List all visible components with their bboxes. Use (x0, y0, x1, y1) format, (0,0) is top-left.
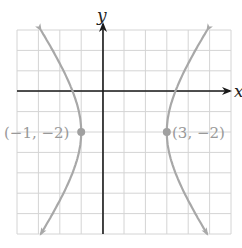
vertex-left-label: (−1, −2) (4, 124, 69, 142)
y-axis: y (96, 5, 107, 234)
vertex-right: (3, −2) (163, 124, 225, 142)
x-axis: x (17, 81, 242, 101)
hyperbola-graph: x y (−1, −2) (3, −2) (0, 0, 242, 248)
vertex-right-label: (3, −2) (172, 124, 225, 142)
vertex-left: (−1, −2) (4, 124, 85, 142)
x-axis-label: x (234, 81, 242, 101)
y-axis-label: y (96, 5, 107, 25)
